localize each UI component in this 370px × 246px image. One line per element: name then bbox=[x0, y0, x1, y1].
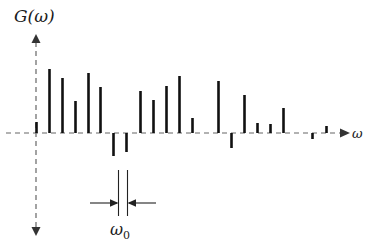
y-axis-arrowhead-up bbox=[32, 34, 41, 43]
omega0-right-arrowhead bbox=[128, 199, 137, 207]
x-axis-arrowhead bbox=[340, 129, 350, 138]
y-axis-label: G(ω) bbox=[14, 6, 55, 26]
omega0-label-base: ω bbox=[110, 220, 123, 239]
x-axis-label: ω bbox=[352, 126, 363, 141]
omega0-left-arrowhead bbox=[110, 199, 119, 207]
spectrum-plot bbox=[0, 0, 370, 246]
y-axis-group bbox=[32, 34, 41, 236]
omega0-label: ω0 bbox=[110, 220, 130, 242]
omega0-label-subscript: 0 bbox=[123, 229, 130, 242]
x-axis-group bbox=[6, 129, 350, 138]
y-axis-arrowhead-down bbox=[32, 227, 41, 236]
spectrum-figure: G(ω) ω ω0 bbox=[0, 0, 370, 246]
omega0-annotation-group bbox=[90, 170, 156, 216]
stem-series bbox=[37, 69, 327, 156]
